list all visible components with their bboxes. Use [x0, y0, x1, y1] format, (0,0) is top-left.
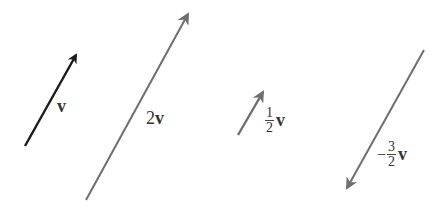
vector-v-arrow: [25, 55, 76, 146]
vector-2v-arrow: [86, 14, 188, 200]
label-half-v: 1 2 v: [265, 106, 285, 135]
fraction-denominator: 2: [388, 155, 395, 169]
fraction-denominator: 2: [266, 121, 273, 135]
vector-half-v-arrow: [238, 92, 263, 135]
label-v: v: [57, 96, 66, 117]
label-2v: 2v: [146, 108, 164, 129]
fraction-numerator: 1: [265, 106, 274, 121]
minus-sign: −: [377, 146, 386, 164]
fraction-three-halves: 3 2: [387, 140, 396, 169]
label-half-v-var: v: [276, 110, 285, 131]
label-v-var: v: [57, 96, 66, 116]
vector-diagram: [0, 0, 443, 213]
fraction-one-half: 1 2: [265, 106, 274, 135]
label-2v-coef: 2: [146, 108, 155, 128]
fraction-numerator: 3: [387, 140, 396, 155]
label-neg-three-halves-v-var: v: [398, 144, 407, 165]
label-neg-three-halves-v: − 3 2 v: [377, 140, 407, 169]
label-2v-var: v: [155, 108, 164, 128]
